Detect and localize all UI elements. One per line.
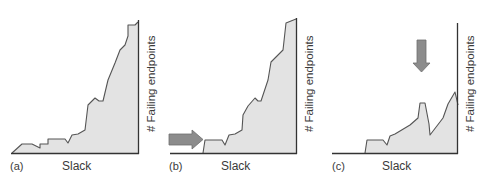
panel-a-xlabel: Slack — [62, 159, 92, 173]
figure-canvas: (a) Slack # Failing endpoints (b) Slack … — [0, 0, 490, 181]
panel-c-ylabel: # Failing endpoints — [464, 35, 476, 132]
panel-b: (b) Slack # Failing endpoints — [169, 18, 315, 173]
panel-a-tag: (a) — [10, 160, 23, 172]
right-arrow-icon — [169, 130, 203, 149]
panel-c-tag: (c) — [332, 160, 345, 172]
panel-c-area — [365, 92, 458, 153]
down-arrow-icon — [413, 40, 430, 72]
panel-a-area — [12, 22, 138, 153]
panel-b-tag: (b) — [169, 160, 182, 172]
panel-b-area — [203, 19, 296, 153]
panel-a: (a) Slack # Failing endpoints — [10, 20, 157, 173]
panel-a-ylabel: # Failing endpoints — [145, 35, 157, 132]
panel-c-xlabel: Slack — [382, 159, 412, 173]
panel-b-ylabel: # Failing endpoints — [303, 35, 315, 132]
panel-c: (c) Slack # Failing endpoints — [332, 23, 476, 173]
panel-b-xlabel: Slack — [221, 159, 251, 173]
